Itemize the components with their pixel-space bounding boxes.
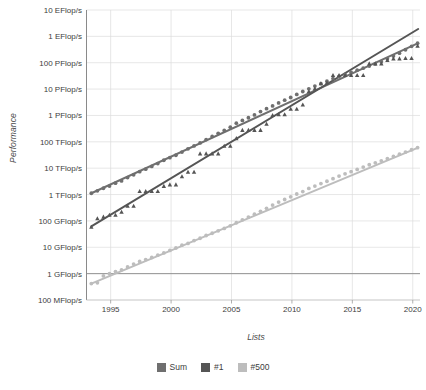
x-axis-tick-label: 1995 (89, 305, 133, 314)
x-axis-tick-label: 2000 (149, 305, 193, 314)
x-axis-tick-label: 2015 (330, 305, 374, 314)
legend-swatch-icon (238, 363, 247, 372)
legend-label: #500 (251, 362, 270, 372)
legend-item-num1[interactable]: #1 (201, 362, 223, 372)
x-axis-title: Lists (86, 332, 426, 342)
x-axis-tick-label: 2010 (270, 305, 314, 314)
legend-item-num500[interactable]: #500 (238, 362, 270, 372)
legend-label: Sum (170, 362, 187, 372)
legend-label: #1 (214, 362, 223, 372)
performance-development-chart: Performance 10 EFlop/s1 EFlop/s100 PFlop… (0, 0, 426, 390)
legend-swatch-icon (157, 363, 166, 372)
chart-legend: Sum#1#500 (0, 362, 426, 372)
legend-swatch-icon (201, 363, 210, 372)
x-axis-tick-label: 2005 (210, 305, 254, 314)
x-axis-tick-label: 2020 (391, 305, 426, 314)
legend-item-Sum[interactable]: Sum (157, 362, 187, 372)
